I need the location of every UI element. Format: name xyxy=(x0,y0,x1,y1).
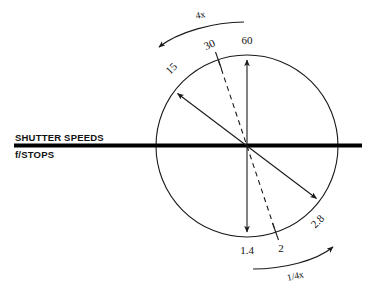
rotation-arc-quarter-x xyxy=(253,247,333,269)
dial-label-2.8: 2.8 xyxy=(308,212,327,231)
radial-line-2.8 xyxy=(247,146,317,199)
dial-label-2: 2 xyxy=(278,242,284,254)
dial-label-1.4: 1.4 xyxy=(240,244,254,256)
radial-line-30-dashed xyxy=(219,61,248,147)
diagram-canvas: SHUTTER SPEEDS f/STOPS 15 30 60 1.4 2 2.… xyxy=(0,0,377,293)
dial-label-60: 60 xyxy=(242,34,254,46)
reciprocity-diagram: SHUTTER SPEEDS f/STOPS 15 30 60 1.4 2 2.… xyxy=(0,0,377,293)
rotation-arc-4x xyxy=(159,22,244,47)
axis-label-shutter-speeds: SHUTTER SPEEDS xyxy=(15,132,104,143)
radial-line-2-dashed xyxy=(247,146,276,232)
dial-label-30: 30 xyxy=(202,36,217,52)
axis-label-fstops: f/STOPS xyxy=(15,149,54,160)
radial-line-15 xyxy=(178,94,248,147)
rotation-label-4x: 4x xyxy=(195,9,207,21)
rotation-label-quarter-x: 1/4x xyxy=(286,269,305,283)
dial-label-15: 15 xyxy=(163,60,180,77)
